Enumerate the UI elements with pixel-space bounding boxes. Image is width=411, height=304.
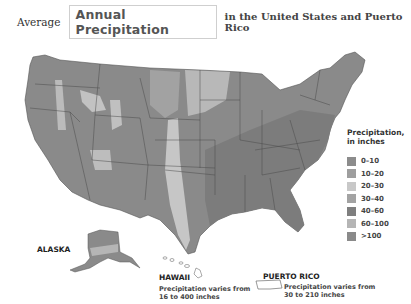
hawaii-label: HAWAII <box>159 273 190 282</box>
legend-item: 60–100 <box>347 218 411 231</box>
legend-swatch <box>347 232 356 241</box>
legend-item: 10–20 <box>347 168 411 181</box>
legend-swatch <box>347 182 356 191</box>
legend-label: 20–30 <box>361 182 384 190</box>
legend-swatch <box>347 194 356 203</box>
legend-item: 0–10 <box>347 155 411 168</box>
alaska-label: ALASKA <box>37 245 70 254</box>
puerto-rico-label: PUERTO RICO <box>263 272 320 281</box>
legend-swatch <box>347 219 356 228</box>
legend-item: 40–60 <box>347 205 411 218</box>
puerto-rico-note: Precipitation varies from 30 to 210 inch… <box>284 283 375 299</box>
puerto-rico-shape <box>256 280 282 289</box>
legend-item: 30–40 <box>347 193 411 206</box>
legend-label: 0–10 <box>361 157 379 165</box>
legend-label: 30–40 <box>361 195 384 203</box>
legend-label: >100 <box>361 232 381 240</box>
legend-item: >100 <box>347 230 411 243</box>
legend-label: 40–60 <box>361 207 384 215</box>
hawaii-note: Precipitation varies from 16 to 400 inch… <box>159 285 250 301</box>
legend-title-line2: in inches <box>347 137 411 146</box>
legend-swatch <box>347 169 356 178</box>
legend-title-line1: Precipitation, <box>347 128 411 137</box>
legend-label: 10–20 <box>361 170 384 178</box>
legend-label: 60–100 <box>361 220 389 228</box>
legend-swatch <box>347 157 356 166</box>
legend: Precipitation, in inches 0–10 10–20 20–3… <box>347 128 411 243</box>
alaska-shape <box>70 230 140 272</box>
legend-items: 0–10 10–20 20–30 30–40 40–60 60–100 >100 <box>347 155 411 243</box>
legend-swatch <box>347 207 356 216</box>
legend-item: 20–30 <box>347 180 411 193</box>
